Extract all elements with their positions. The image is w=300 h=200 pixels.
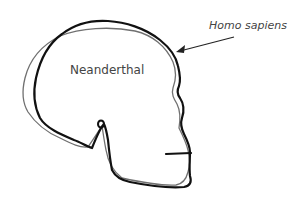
skull-comparison-diagram: Neanderthal Homo sapiens (0, 0, 300, 200)
homo-sapiens-label: Homo sapiens (209, 20, 287, 31)
pointer-arrow-line (180, 37, 234, 51)
neanderthal-label: Neanderthal (70, 64, 144, 76)
arrow-head-icon (176, 45, 185, 53)
neanderthal-skull-outline (23, 28, 189, 185)
homo-sapiens-skull-outline (34, 21, 190, 187)
mouth-line (166, 153, 191, 154)
